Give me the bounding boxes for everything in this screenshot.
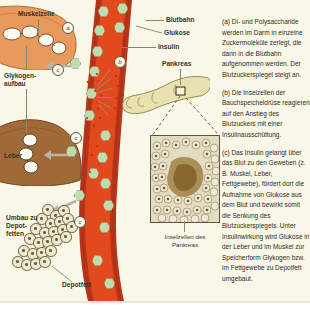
panel-bottom-edge — [0, 301, 310, 303]
inset-caption-leader — [184, 221, 185, 232]
label-umbau-line2: Depot- — [6, 222, 27, 229]
label-umbau-line3: fetten — [6, 230, 24, 237]
pankreas-leader — [180, 69, 181, 85]
label-muskelzelle: Muskelzelle — [18, 10, 55, 17]
inset-caption: Inselzellen desPankreas — [148, 233, 222, 249]
label-glykogenaufbau-line1: Glykogen- — [4, 72, 36, 79]
paragraph-a: (a) Di- und Polysaccharide werden im Dar… — [222, 17, 310, 80]
depotfett-leader — [48, 264, 76, 284]
glukose-leader — [126, 24, 164, 38]
step-marker-c-liver: c — [70, 132, 82, 144]
inset-caption-line1: Inselzellen des — [165, 233, 206, 240]
figure-root: Inselzellen desPankreas Muskelzelle Glyk… — [0, 0, 310, 319]
label-glykogenaufbau-line2: aufbau — [4, 80, 26, 87]
step-marker-a: a — [62, 22, 74, 34]
glykogen-leader-down — [26, 89, 27, 133]
islet-cells-micrograph — [150, 135, 220, 223]
muskelzelle-leader — [38, 19, 39, 35]
label-glukose: Glukose — [164, 29, 190, 36]
step-marker-b: b — [114, 56, 126, 68]
liver-illustration — [0, 104, 88, 186]
insulin-leader — [120, 47, 156, 48]
step-marker-c-muscle: c — [52, 64, 64, 76]
paragraph-c: (c) Das Insulin gelangt über das Blut zu… — [222, 148, 310, 285]
label-umbau-line1: Umbau zu — [6, 214, 38, 221]
inset-caption-line2: Pankreas — [172, 241, 198, 248]
paragraph-b: (b) Die Inselzellen der Bauchspeicheldrü… — [222, 88, 310, 141]
explanation-text-panel: (a) Di- und Polysaccharide werden im Dar… — [222, 17, 310, 292]
label-insulin: Insulin — [158, 43, 179, 50]
glykogen-leader-up — [26, 46, 27, 70]
step-marker-c-fat: c — [74, 216, 86, 228]
label-blutbahn: Blutbahn — [166, 16, 195, 23]
label-leber: Leber — [4, 152, 22, 159]
blutbahn-leader — [146, 20, 164, 21]
label-pankreas: Pankreas — [162, 60, 191, 67]
